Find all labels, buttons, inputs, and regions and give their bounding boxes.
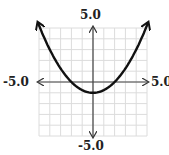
- y-min-label: -5.0: [78, 139, 104, 153]
- y-max-label: 5.0: [80, 8, 101, 22]
- x-min-label: -5.0: [3, 75, 29, 89]
- x-max-label: 5.0: [151, 75, 169, 89]
